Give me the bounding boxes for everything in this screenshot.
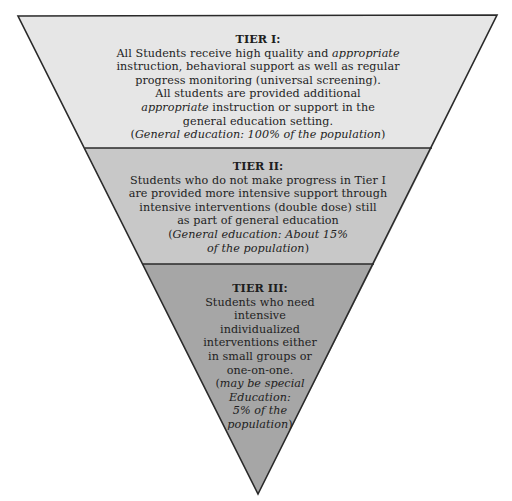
description-line: of the population): [105, 242, 411, 256]
emphasis-text: Education:: [229, 391, 291, 404]
tier-3-text: TIER III: Students who needintensiveindi…: [160, 282, 360, 432]
tier-2-text: TIER II: Students who do not make progre…: [105, 160, 411, 255]
tier-3-heading: TIER III:: [160, 282, 360, 296]
emphasis-text: 5% of the: [233, 404, 288, 417]
tier-3-description: Students who needintensiveindividualized…: [160, 296, 360, 432]
emphasis-text: appropriate: [332, 47, 400, 60]
tier-1-description: All Students receive high quality and ap…: [60, 47, 456, 142]
description-line: instruction, behavioral support as well …: [60, 60, 456, 74]
emphasis-text: population: [227, 418, 288, 431]
tier-2-heading: TIER II:: [105, 160, 411, 174]
emphasis-text: may be special: [220, 377, 305, 390]
description-line: Students who need: [160, 296, 360, 310]
tier-1-heading: TIER I:: [60, 33, 456, 47]
description-line: (General education: About 15%: [105, 228, 411, 242]
description-line: general education setting.: [60, 115, 456, 129]
emphasis-text: General education: About 15%: [173, 228, 348, 241]
tier-1-text: TIER I: All Students receive high qualit…: [60, 33, 456, 142]
description-line: Students who do not make progress in Tie…: [105, 174, 411, 188]
description-line: (may be special: [160, 377, 360, 391]
description-line: individualized: [160, 323, 360, 337]
description-line: progress monitoring (universal screening…: [60, 74, 456, 88]
description-line: All Students receive high quality and ap…: [60, 47, 456, 61]
tier-2-description: Students who do not make progress in Tie…: [105, 174, 411, 256]
description-line: 5% of the: [160, 404, 360, 418]
description-line: (General education: 100% of the populati…: [60, 128, 456, 142]
emphasis-text: of the population: [207, 242, 305, 255]
description-line: intensive interventions (double dose) st…: [105, 201, 411, 215]
description-line: All students are provided additional: [60, 87, 456, 101]
emphasis-text: appropriate: [141, 101, 209, 114]
emphasis-text: General education: 100% of the populatio…: [135, 128, 381, 141]
description-line: as part of general education: [105, 214, 411, 228]
description-line: population): [160, 418, 360, 432]
description-line: intensive: [160, 309, 360, 323]
description-line: in small groups or: [160, 350, 360, 364]
description-line: one-on-one.: [160, 364, 360, 378]
description-line: interventions either: [160, 336, 360, 350]
description-line: appropriate instruction or support in th…: [60, 101, 456, 115]
description-line: Education:: [160, 391, 360, 405]
description-line: are provided more intensive support thro…: [105, 187, 411, 201]
